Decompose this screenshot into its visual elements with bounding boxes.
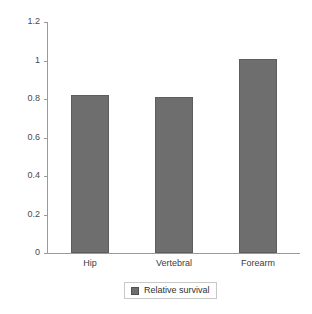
- y-tick-label: 1: [35, 55, 40, 66]
- x-tick-label: Hip: [45, 257, 135, 269]
- bar-vertebral[interactable]: [155, 97, 193, 253]
- bar-chart-figure: 1.210.80.60.40.20 HipVertebralForearm Re…: [0, 0, 312, 314]
- y-tick-label: 1.2: [27, 16, 40, 27]
- plot-area: [48, 22, 300, 253]
- bar-slot: [155, 22, 193, 253]
- y-tick-label: 0.8: [27, 93, 40, 104]
- x-tick-label: Forearm: [213, 257, 303, 269]
- y-tick-label: 0.2: [27, 209, 40, 220]
- chart-legend: Relative survival: [124, 282, 217, 299]
- bar-forearm[interactable]: [239, 59, 277, 253]
- bar-hip[interactable]: [71, 95, 109, 253]
- y-tick-mark: [44, 253, 48, 254]
- x-tick-label: Vertebral: [129, 257, 219, 269]
- y-tick-label: 0.4: [27, 170, 40, 181]
- y-tick-label: 0: [35, 247, 40, 258]
- legend-label: Relative survival: [144, 285, 210, 296]
- x-axis-line: [47, 253, 300, 254]
- bar-slot: [71, 22, 109, 253]
- y-tick-label: 0.6: [27, 132, 40, 143]
- legend-color-swatch: [131, 287, 139, 295]
- bar-slot: [239, 22, 277, 253]
